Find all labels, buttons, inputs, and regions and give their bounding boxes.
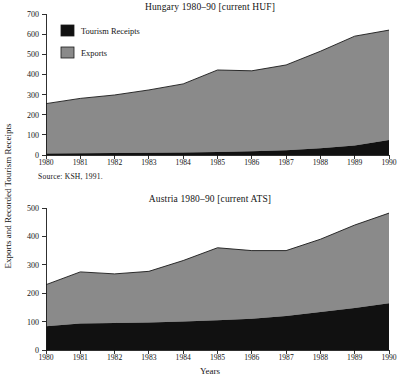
y-tick-label: 400 — [27, 232, 39, 241]
x-tick-label: 1989 — [347, 353, 362, 362]
y-axis-title: Exports and Recorded Tourism Receipts — [3, 123, 13, 269]
plot-area-austria — [46, 213, 389, 350]
y-tick-label: 200 — [27, 111, 39, 120]
chart-title-austria: Austria 1980–90 [current ATS] — [149, 194, 271, 204]
legend-label-tourism-receipts: Tourism Receipts — [81, 27, 140, 36]
chart-austria: Austria 1980–90 [current ATS] 0100200300… — [27, 194, 397, 376]
x-tick-label: 1981 — [73, 353, 88, 362]
x-tick-label: 1983 — [141, 353, 156, 362]
y-tick-label: 200 — [27, 289, 39, 298]
x-tick-label: 1980 — [38, 353, 53, 362]
figure-root: Exports and Recorded Tourism Receipts Hu… — [0, 0, 401, 384]
y-tick-label: 500 — [27, 50, 39, 59]
y-axis-hungary: 0100200300400500600700 — [27, 10, 46, 160]
x-tick-label: 1990 — [381, 158, 396, 167]
x-tick-label: 1988 — [313, 158, 328, 167]
x-tick-label: 1988 — [313, 353, 328, 362]
x-tick-label: 1984 — [176, 353, 191, 362]
x-tick-label: 1989 — [347, 158, 362, 167]
legend-label-exports: Exports — [81, 49, 107, 58]
y-tick-label: 500 — [27, 204, 39, 213]
x-tick-label: 1986 — [244, 158, 259, 167]
y-tick-label: 600 — [27, 30, 39, 39]
legend-swatch-exports — [61, 47, 74, 58]
x-tick-label: 1985 — [210, 158, 225, 167]
x-tick-label: 1982 — [107, 158, 122, 167]
legend-swatch-tourism-receipts — [61, 25, 74, 36]
x-axis-hungary: 1980198119821983198419851986198719881989… — [38, 155, 396, 167]
y-tick-label: 300 — [27, 91, 39, 100]
source-note-hungary: Source: KSH, 1991. — [38, 172, 103, 181]
y-tick-label: 100 — [27, 318, 39, 327]
y-axis-austria: 0100200300400500 — [27, 204, 46, 355]
chart-hungary: Hungary 1980–90 [current HUF] 0100200300… — [27, 2, 397, 181]
x-tick-label: 1983 — [141, 158, 156, 167]
x-axis-title: Years — [200, 366, 221, 376]
y-tick-label: 300 — [27, 261, 39, 270]
y-tick-label: 100 — [27, 131, 39, 140]
x-tick-label: 1982 — [107, 353, 122, 362]
chart-title-hungary: Hungary 1980–90 [current HUF] — [145, 2, 275, 12]
x-tick-label: 1990 — [381, 353, 396, 362]
series-area-exports-austria — [46, 213, 389, 326]
x-tick-label: 1981 — [73, 158, 88, 167]
x-tick-label: 1986 — [244, 353, 259, 362]
legend: Tourism Receipts Exports — [61, 25, 140, 58]
x-tick-label: 1980 — [38, 158, 53, 167]
x-tick-label: 1984 — [176, 158, 191, 167]
y-tick-label: 700 — [27, 10, 39, 19]
x-tick-label: 1985 — [210, 353, 225, 362]
y-tick-label: 400 — [27, 70, 39, 79]
x-axis-austria: 1980198119821983198419851986198719881989… — [38, 350, 396, 362]
x-tick-label: 1987 — [279, 158, 294, 167]
x-tick-label: 1987 — [279, 353, 294, 362]
